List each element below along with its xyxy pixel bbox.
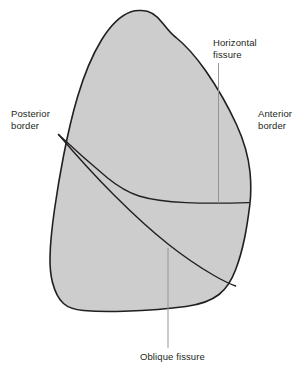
label-horizontal-fissure: Horizontal fissure <box>213 37 257 60</box>
horizontal-fissure-line-1: Horizontal <box>213 37 257 49</box>
lung-anatomy-figure: Posterior border Anterior border Horizon… <box>0 0 305 374</box>
oblique-fissure-line-1: Oblique fissure <box>140 351 205 363</box>
anterior-border-line-1: Anterior <box>258 108 292 120</box>
label-posterior-border: Posterior border <box>11 108 50 131</box>
posterior-border-line-2: border <box>11 120 50 132</box>
label-oblique-fissure: Oblique fissure <box>140 351 205 363</box>
anterior-border-line-2: border <box>258 120 292 132</box>
horizontal-fissure-line-2: fissure <box>213 49 257 61</box>
lung-diagram <box>0 0 305 374</box>
label-anterior-border: Anterior border <box>258 108 292 131</box>
posterior-border-line-1: Posterior <box>11 108 50 120</box>
